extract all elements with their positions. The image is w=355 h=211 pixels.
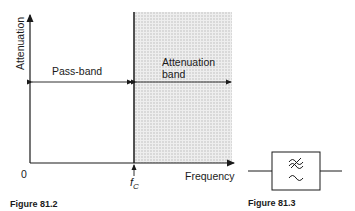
- cutoff-frequency-label: fC: [130, 176, 139, 191]
- figure-caption-right: Figure 81.3: [248, 198, 296, 208]
- origin-label: 0: [21, 168, 27, 180]
- attenuation-band-label-line1: Attenuation: [162, 56, 215, 68]
- attenuation-band-label-line2: band: [162, 68, 185, 80]
- cutoff-subscript: C: [133, 182, 139, 191]
- filter-block: [272, 152, 320, 190]
- figure-caption-left: Figure 81.2: [10, 199, 58, 209]
- pass-band-label: Pass-band: [52, 65, 102, 77]
- attenuation-band-shade: [134, 12, 232, 163]
- x-axis-label: Frequency: [185, 170, 235, 182]
- y-axis-label: Attenuation: [14, 17, 26, 70]
- diagram-graphics: [0, 0, 355, 211]
